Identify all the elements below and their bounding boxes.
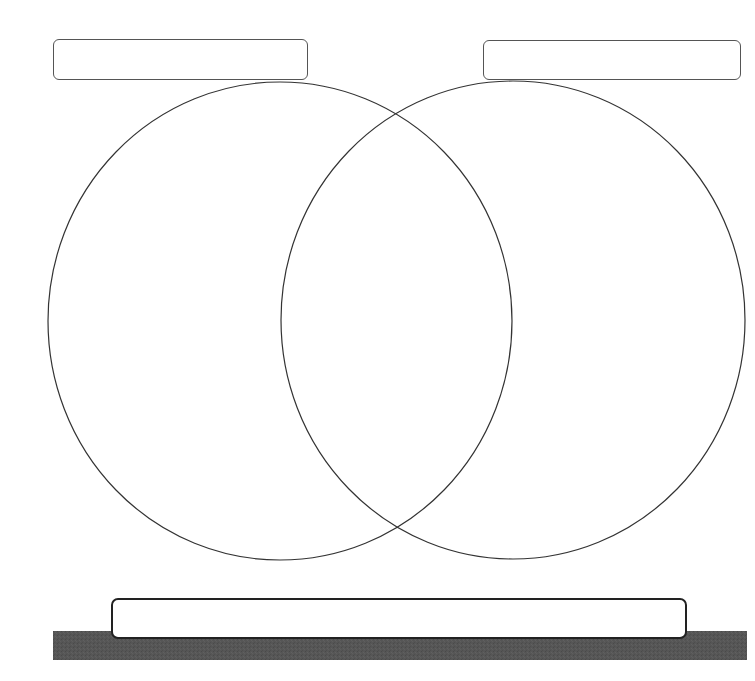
venn-diagram xyxy=(0,0,755,681)
right-circle xyxy=(281,81,745,559)
left-circle xyxy=(48,82,512,560)
left-set-label-box[interactable] xyxy=(53,39,308,80)
bottom-label-box[interactable] xyxy=(111,598,687,639)
right-set-label-box[interactable] xyxy=(483,40,741,80)
